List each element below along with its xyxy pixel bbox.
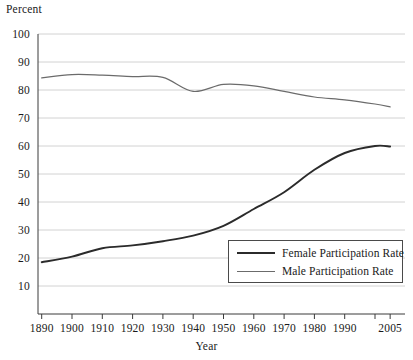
y-tick-label: 60 (0, 141, 30, 153)
legend-label-female: Female Participation Rate (282, 247, 404, 259)
y-tick-label: 50 (0, 169, 30, 181)
x-tick-label: 1990 (325, 323, 365, 335)
chart-plot-area (0, 0, 413, 360)
chart-legend: Female Participation Rate Male Participa… (228, 240, 403, 283)
x-tick-label: 2005 (370, 323, 410, 335)
legend-item-male: Male Participation Rate (237, 262, 394, 280)
legend-label-male: Male Participation Rate (282, 265, 394, 277)
legend-item-female: Female Participation Rate (237, 244, 404, 262)
y-tick-label: 40 (0, 197, 30, 209)
y-tick-label: 80 (0, 85, 30, 97)
y-tick-label: 20 (0, 253, 30, 265)
y-tick-label: 10 (0, 281, 30, 293)
y-tick-label: 30 (0, 225, 30, 237)
data-series-lines (42, 74, 390, 262)
legend-swatch-male (237, 271, 275, 272)
y-tick-label: 90 (0, 57, 30, 69)
y-tick-label: 70 (0, 113, 30, 125)
y-tick-label: 100 (0, 29, 30, 41)
chart-container: Percent 100908070605040302010 1890190019… (0, 0, 413, 360)
legend-swatch-female (237, 252, 275, 254)
x-axis-tick-marks (42, 314, 390, 319)
x-axis-title: Year (0, 340, 413, 352)
series-line-male (42, 74, 390, 106)
